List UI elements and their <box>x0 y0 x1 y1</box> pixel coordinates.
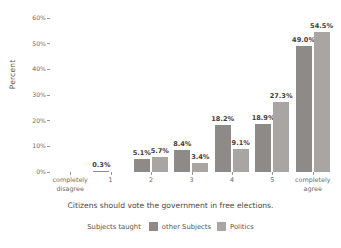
bar-group: 8.4%3.4% <box>171 18 211 172</box>
bar-group-bars: 18.2%9.1% <box>212 18 252 172</box>
x-axis-tick-mark <box>232 172 233 175</box>
bar[interactable] <box>314 32 330 172</box>
bar[interactable] <box>296 46 312 172</box>
bar-value-label: 18.2% <box>208 115 238 123</box>
x-axis-tick-line2: disagree <box>43 185 97 194</box>
y-axis-tick-label: 0% <box>20 168 46 175</box>
plot-area: 0.3%5.1%5.7%8.4%3.4%18.2%9.1%18.9%27.3%4… <box>50 18 333 172</box>
bar[interactable] <box>134 159 150 172</box>
bar-group: 18.9%27.3% <box>252 18 292 172</box>
bar-group: 49.0%54.5% <box>293 18 333 172</box>
legend: Subjects taught other Subjects Politics <box>0 222 341 231</box>
x-axis-tick-mark <box>192 172 193 175</box>
y-axis-title: Percent <box>8 45 17 105</box>
bar-group-bars: 49.0%54.5% <box>293 18 333 172</box>
x-axis-tick-mark <box>151 172 152 175</box>
x-axis-tick-mark <box>272 172 273 175</box>
bar-group-bars: 0.3% <box>90 18 130 172</box>
x-axis-tick-mark <box>313 172 314 175</box>
legend-swatch-other-subjects-icon <box>149 222 158 231</box>
bar[interactable] <box>273 102 289 172</box>
y-axis-tick-label: 20% <box>20 117 46 124</box>
bar-group: 0.3% <box>90 18 130 172</box>
y-axis-tick-label: 60% <box>20 14 46 21</box>
legend-label-other-subjects: other Subjects <box>162 223 211 231</box>
bar-group-bars: 5.1%5.7% <box>131 18 171 172</box>
bar-chart: Percent 0%10%20%30%40%50%60% 0.3%5.1%5.7… <box>0 0 341 248</box>
bar[interactable] <box>215 125 231 172</box>
bar-group <box>50 18 90 172</box>
y-axis-tick-label: 10% <box>20 142 46 149</box>
legend-entry-other-subjects[interactable]: other Subjects <box>149 222 211 231</box>
legend-entry-politics[interactable]: Politics <box>217 222 254 231</box>
bar[interactable] <box>93 171 109 172</box>
legend-swatch-politics-icon <box>217 222 226 231</box>
bar-group: 5.1%5.7% <box>131 18 171 172</box>
x-axis-tick-mark <box>70 172 71 175</box>
bar[interactable] <box>152 157 168 172</box>
bar[interactable] <box>233 149 249 172</box>
x-axis-tick-line1: completely <box>286 176 340 185</box>
bar-group-bars: 8.4%3.4% <box>171 18 211 172</box>
x-axis-title: Citizens should vote the government in f… <box>0 201 341 210</box>
y-axis-tick-label: 50% <box>20 40 46 47</box>
bar[interactable] <box>255 124 271 173</box>
bar-group-bars: 18.9%27.3% <box>252 18 292 172</box>
bar-value-label: 54.5% <box>307 22 337 30</box>
bar-group: 18.2%9.1% <box>212 18 252 172</box>
x-axis-tick-label: completelyagree <box>286 176 340 193</box>
bar-value-label: 0.3% <box>86 161 116 169</box>
legend-title: Subjects taught <box>87 223 141 231</box>
bar[interactable] <box>192 163 208 172</box>
x-axis-tick-mark <box>111 172 112 175</box>
bar-group-bars <box>50 18 90 172</box>
bar-value-label: 8.4% <box>167 140 197 148</box>
y-axis-tick-label: 40% <box>20 65 46 72</box>
y-axis-tick-label: 30% <box>20 91 46 98</box>
legend-label-politics: Politics <box>230 223 254 231</box>
x-axis-tick-line2: agree <box>286 185 340 194</box>
